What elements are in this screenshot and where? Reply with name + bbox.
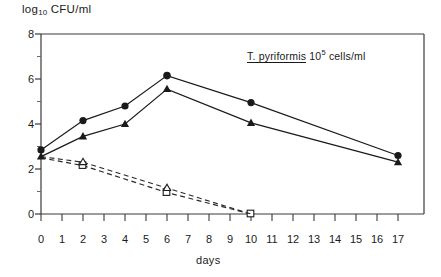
x-tick-label-6: 6 xyxy=(159,233,175,245)
y-tick-label-8: 8 xyxy=(18,28,34,40)
x-tick-label-10: 10 xyxy=(243,233,259,245)
chart-figure: log10 CFU/ml days T. pyriformis 105 cell… xyxy=(0,0,441,277)
legend-species-name: T. pyriformis xyxy=(247,50,306,63)
y-tick-label-6: 6 xyxy=(18,73,34,85)
legend-concentration-units: cells/ml xyxy=(326,50,366,62)
y-tick-label-0: 0 xyxy=(18,208,34,220)
series-open-square-line xyxy=(41,158,251,214)
x-tick-label-15: 15 xyxy=(348,233,364,245)
y-axis-title: log10 CFU/ml xyxy=(22,3,91,17)
y-major-ticks xyxy=(35,34,41,214)
y-axis-title-base: log xyxy=(22,3,38,15)
condition-legend: T. pyriformis 105 cells/ml xyxy=(247,48,366,62)
x-tick-label-11: 11 xyxy=(264,233,280,245)
x-tick-label-5: 5 xyxy=(138,233,154,245)
x-tick-label-9: 9 xyxy=(222,233,238,245)
data-point-filled-circle-d2 xyxy=(79,117,86,124)
x-tick-label-14: 14 xyxy=(327,233,343,245)
series-open-triangle-line xyxy=(41,157,251,214)
x-tick-label-17: 17 xyxy=(390,233,406,245)
series-open-triangle xyxy=(41,157,251,214)
data-point-filled-triangle-d6 xyxy=(163,85,171,92)
series-filled-circle xyxy=(37,72,401,159)
data-point-filled-triangle-d4 xyxy=(121,120,129,127)
data-point-filled-circle-d10 xyxy=(247,99,254,106)
x-tick-label-4: 4 xyxy=(117,233,133,245)
x-tick-label-0: 0 xyxy=(33,233,49,245)
data-point-filled-circle-d17 xyxy=(394,152,401,159)
x-tick-label-8: 8 xyxy=(201,233,217,245)
x-ticks xyxy=(41,214,398,221)
x-tick-label-12: 12 xyxy=(285,233,301,245)
series-filled-circle-line xyxy=(41,76,398,156)
data-point-filled-circle-d4 xyxy=(121,102,128,109)
y-tick-label-2: 2 xyxy=(18,163,34,175)
x-tick-label-16: 16 xyxy=(369,233,385,245)
x-tick-label-3: 3 xyxy=(96,233,112,245)
series-filled-triangle-line xyxy=(41,89,398,162)
x-tick-label-1: 1 xyxy=(54,233,70,245)
y-axis-title-rest: CFU/ml xyxy=(47,3,91,15)
y-tick-label-4: 4 xyxy=(18,118,34,130)
data-point-filled-circle-d6 xyxy=(163,72,171,80)
y-axis-title-subscript: 10 xyxy=(38,8,47,17)
x-tick-label-2: 2 xyxy=(75,233,91,245)
x-axis-title: days xyxy=(196,254,220,266)
x-tick-label-13: 13 xyxy=(306,233,322,245)
legend-concentration-mantissa: 10 xyxy=(306,50,321,62)
series-filled-triangle xyxy=(37,85,402,165)
data-point-filled-circle-d0 xyxy=(37,146,44,153)
axis-frame xyxy=(41,34,424,214)
series-open-square xyxy=(41,158,254,217)
x-tick-label-7: 7 xyxy=(180,233,196,245)
